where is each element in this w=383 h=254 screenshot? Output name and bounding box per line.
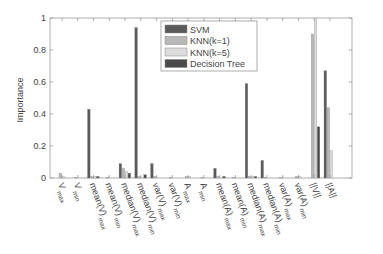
bar-knn-k-1- (138, 176, 141, 178)
bar-knn-k-5- (330, 151, 333, 178)
y-axis-title: Importance (15, 77, 25, 122)
bar-knn-k-1- (75, 177, 78, 178)
bar-decision-tree (317, 127, 320, 178)
bar-knn-k-1- (169, 177, 172, 178)
svg-text:||A||: ||A|| (324, 181, 339, 199)
bar-knn-k-1- (311, 34, 314, 178)
legend-swatch (165, 60, 187, 68)
bar-svm (324, 71, 327, 178)
legend-label: Decision Tree (190, 59, 245, 69)
bar-svm (151, 164, 154, 178)
bar-knn-k-1- (264, 177, 267, 178)
bar-svm (214, 168, 217, 178)
bar-decision-tree (128, 173, 131, 178)
bar-knn-k-5- (314, 18, 317, 178)
bar-knn-k-1- (59, 173, 62, 178)
bar-decision-tree (97, 176, 100, 178)
y-tick-label: 0.4 (33, 109, 46, 119)
bar-knn-k-1- (327, 108, 330, 178)
y-tick-label: 0 (41, 173, 46, 183)
bar-svm (88, 109, 91, 178)
legend: SVMKNN(k=1)KNN(k=5)Decision Tree (161, 21, 257, 71)
y-tick-label: 0.8 (33, 45, 46, 55)
bar-svm (245, 84, 248, 178)
bar-knn-k-1- (232, 177, 235, 178)
bar-decision-tree (144, 175, 147, 178)
legend-swatch (165, 48, 187, 56)
feature-importance-chart: 00.20.40.60.81 VmaxVminmean(V)maxmean(V)… (0, 0, 383, 254)
bar-svm (119, 164, 122, 178)
bar-knn-k-1- (122, 168, 125, 178)
svg-text:Vmax: Vmax (53, 181, 72, 204)
x-tick-label: ||A|| (324, 181, 339, 199)
bar-knn-k-1- (185, 176, 188, 178)
x-tick-label: Vmin (69, 181, 87, 202)
legend-swatch (165, 37, 187, 45)
bar-knn-k-1- (201, 177, 204, 178)
x-tick-label: Amin (195, 181, 213, 202)
x-tick-label: Vmax (53, 181, 72, 204)
x-tick-label: ||V|| (308, 181, 323, 199)
bar-svm (261, 160, 264, 178)
legend-label: KNN(k=5) (190, 48, 230, 58)
bar-knn-k-1- (91, 176, 94, 178)
bar-knn-k-1- (154, 176, 157, 178)
y-tick-label: 0.2 (33, 141, 46, 151)
bar-decision-tree (254, 176, 257, 178)
svg-text:||V||: ||V|| (308, 181, 323, 199)
bar-knn-k-1- (106, 177, 109, 178)
bar-knn-k-1- (280, 177, 283, 178)
y-tick-label: 1 (41, 13, 46, 23)
bar-knn-k-1- (217, 176, 220, 178)
legend-swatch (165, 25, 187, 33)
y-tick-label: 0.6 (33, 77, 46, 87)
bar-knn-k-1- (248, 176, 251, 178)
svg-text:Vmin: Vmin (69, 181, 87, 202)
legend-label: SVM (190, 25, 210, 35)
bar-svm (135, 28, 138, 178)
bar-knn-k-1- (295, 176, 298, 178)
bar-decision-tree (223, 176, 226, 178)
legend-label: KNN(k=1) (190, 36, 230, 46)
svg-text:Amin: Amin (195, 181, 213, 202)
